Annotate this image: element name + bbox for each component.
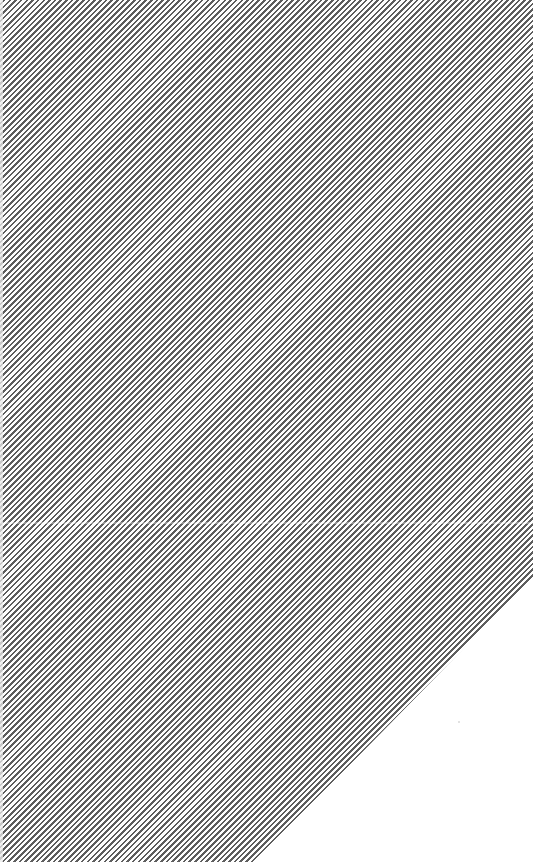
faint-horizontal-band	[0, 522, 533, 524]
left-edge-strip	[0, 0, 3, 862]
canvas	[0, 0, 533, 862]
speck-mark	[458, 721, 460, 723]
